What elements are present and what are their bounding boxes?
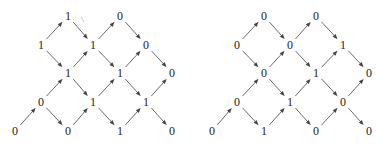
node-label: 1 (261, 124, 267, 138)
arrow-edge (73, 22, 88, 39)
arrow-edge (242, 22, 258, 39)
node-label: 0 (117, 9, 123, 23)
arrow-edge (295, 79, 310, 96)
arrow-edge (295, 22, 310, 39)
arrow-edge (99, 51, 115, 67)
edge-line (98, 108, 112, 123)
edge-line (295, 51, 308, 65)
node-label: 1 (65, 9, 71, 23)
edge-line (99, 51, 113, 65)
node-label: 0 (313, 124, 319, 138)
node-label: 0 (65, 124, 71, 138)
node-label: 0 (234, 38, 240, 52)
edge-line (348, 81, 361, 96)
node-label: 0 (313, 9, 319, 23)
node-label: 1 (117, 66, 123, 80)
stray-tick-mark (81, 17, 84, 22)
arrow-edge (98, 22, 114, 39)
edge-line (348, 51, 361, 65)
arrow-edge (243, 51, 259, 67)
edge-line (46, 108, 60, 123)
arrow-edge (125, 79, 140, 96)
edge-line (125, 79, 138, 94)
edge-line (321, 110, 335, 125)
arrow-edge (98, 108, 114, 125)
edge-line (269, 53, 282, 67)
arrow-edge (321, 79, 337, 96)
arrow-edge (269, 79, 284, 96)
edge-line (73, 79, 86, 94)
node-label: 1 (117, 124, 123, 138)
arrow-edge (98, 79, 114, 96)
edge-line (295, 108, 308, 123)
edge-line (98, 81, 112, 96)
arrow-edge (151, 51, 166, 67)
node-label: 1 (90, 95, 96, 109)
arrow-edge (348, 108, 363, 125)
node-label: 1 (143, 95, 149, 109)
node-label: 0 (234, 95, 240, 109)
arrow-edge (217, 108, 232, 125)
arrow-edge (20, 108, 35, 125)
edge-line (243, 51, 257, 65)
node-label: 1 (65, 66, 71, 80)
node-label: 0 (261, 9, 267, 23)
arrow-edge (125, 108, 140, 125)
node-label: 1 (313, 66, 319, 80)
edge-line (151, 51, 164, 65)
arrow-edge (125, 22, 140, 39)
arrow-edge (269, 51, 284, 67)
node-label: 1 (287, 95, 293, 109)
node-label: 0 (340, 95, 346, 109)
edge-line (125, 110, 138, 125)
edge-line (242, 24, 256, 39)
edge-line (269, 79, 282, 94)
node-label: 0 (169, 124, 175, 138)
edge-line (73, 22, 86, 37)
arrow-edge (322, 51, 338, 67)
node-label: 0 (209, 124, 215, 138)
arrow-edge (348, 79, 363, 96)
edge-line (151, 108, 164, 123)
arrow-edge (321, 22, 337, 39)
node-label: 0 (169, 66, 175, 80)
edge-line (321, 22, 335, 37)
edge-line (46, 24, 60, 39)
node-label: 0 (143, 38, 149, 52)
arrow-edge (46, 79, 62, 96)
edge-line (321, 79, 335, 94)
edge-line (242, 108, 256, 123)
edge-line (73, 110, 86, 125)
edge-line (322, 53, 336, 67)
node-label: 0 (12, 124, 18, 138)
arrow-edge (348, 51, 363, 67)
node-label: 1 (90, 38, 96, 52)
arrow-edge (73, 51, 87, 67)
node-label: 1 (38, 38, 44, 52)
arrow-edge (151, 108, 166, 125)
arrow-edge (295, 108, 310, 125)
edge-line (242, 81, 256, 96)
arrow-edge (73, 108, 88, 125)
edge-line (125, 22, 138, 37)
arrow-edge (125, 51, 140, 67)
arrow-edge (295, 51, 310, 67)
node-label: 0 (38, 95, 44, 109)
arrow-edge (269, 108, 284, 125)
arrow-edge (269, 22, 284, 39)
edge-line (47, 51, 61, 65)
edge-line (125, 53, 138, 67)
edge-line (46, 81, 60, 96)
edge-line (20, 110, 33, 125)
nodes-layer: 101101100110010000010100100100 (12, 9, 372, 138)
right-lattice: 000010100100100 (209, 9, 372, 138)
edge-line (217, 110, 230, 125)
arrow-edge (151, 79, 166, 96)
node-label: 1 (340, 38, 346, 52)
arrow-edge (73, 79, 88, 96)
node-label: 0 (366, 124, 372, 138)
edge-line (295, 81, 308, 96)
edge-line (98, 24, 112, 39)
edge-line (269, 22, 282, 37)
edge-line (269, 110, 282, 125)
